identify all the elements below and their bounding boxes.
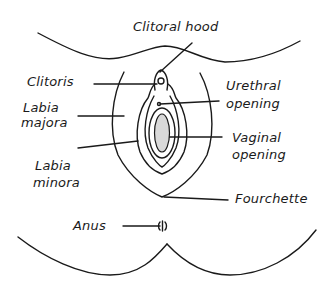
label-labia-majora-line1: Labia xyxy=(23,100,59,115)
label-labia-majora-line2: majora xyxy=(21,115,68,130)
vaginal-opening-shape xyxy=(155,114,170,152)
label-anus: Anus xyxy=(73,218,106,233)
leader-fourchette xyxy=(164,197,228,200)
label-clitoral-hood: Clitoral hood xyxy=(133,19,218,34)
label-labia-minora-line2: minora xyxy=(33,175,80,190)
upper-contour xyxy=(38,33,300,62)
lower-contour-left xyxy=(18,237,167,275)
label-fourchette: Fourchette xyxy=(235,191,308,206)
label-vaginal-line1: Vaginal xyxy=(232,130,281,145)
leader-labia-minora xyxy=(78,141,138,148)
anatomy-diagram: Clitoral hood Clitoris Labia majora Labi… xyxy=(0,0,333,298)
lower-contour-right xyxy=(167,230,316,275)
clitoral-hood-shape xyxy=(154,70,167,90)
label-urethral-line1: Urethral xyxy=(226,78,281,93)
clitoris-shape xyxy=(158,78,164,84)
label-labia-minora-line1: Labia xyxy=(35,158,71,173)
label-vaginal-line2: opening xyxy=(232,147,286,162)
label-urethral-line2: opening xyxy=(226,96,280,111)
label-clitoris: Clitoris xyxy=(27,74,74,89)
